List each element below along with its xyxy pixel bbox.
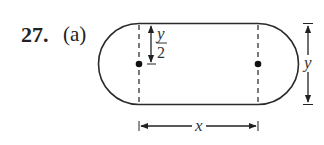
right-center-dot: [255, 61, 262, 68]
stadium-outline: [99, 24, 299, 105]
height-label: y: [302, 53, 312, 72]
half-height-arrow: [147, 26, 156, 64]
stadium-diagram: y 2 y x: [0, 0, 324, 145]
left-center-dot: [136, 61, 143, 68]
svg-text:2: 2: [157, 44, 165, 61]
half-height-label: y 2: [155, 24, 167, 61]
width-label: x: [194, 116, 203, 135]
svg-text:y: y: [155, 24, 165, 43]
